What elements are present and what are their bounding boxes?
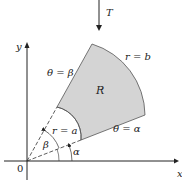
- upper-ray-label: θ = β: [47, 67, 74, 78]
- outer-arc-label: r = b: [125, 51, 151, 62]
- x-axis: [4, 159, 179, 164]
- beta-base-arc: [57, 149, 59, 161]
- polar-region-diagram: T x y 0 r = b θ = β R r = a θ = α β α: [0, 0, 182, 182]
- y-axis: [25, 42, 30, 180]
- transform-label: T: [106, 7, 114, 18]
- y-axis-label: y: [15, 41, 22, 52]
- lower-ray-label: θ = α: [113, 123, 141, 134]
- alpha-angle-label: α: [73, 146, 80, 157]
- x-axis-label: x: [177, 168, 182, 179]
- beta-angle-label: β: [42, 139, 49, 150]
- inner-arc-label: r = a: [52, 125, 78, 136]
- alpha-angle-arc: [69, 145, 72, 161]
- transform-arrow: [96, 0, 102, 31]
- region-label: R: [95, 84, 104, 97]
- origin-label: 0: [17, 163, 23, 174]
